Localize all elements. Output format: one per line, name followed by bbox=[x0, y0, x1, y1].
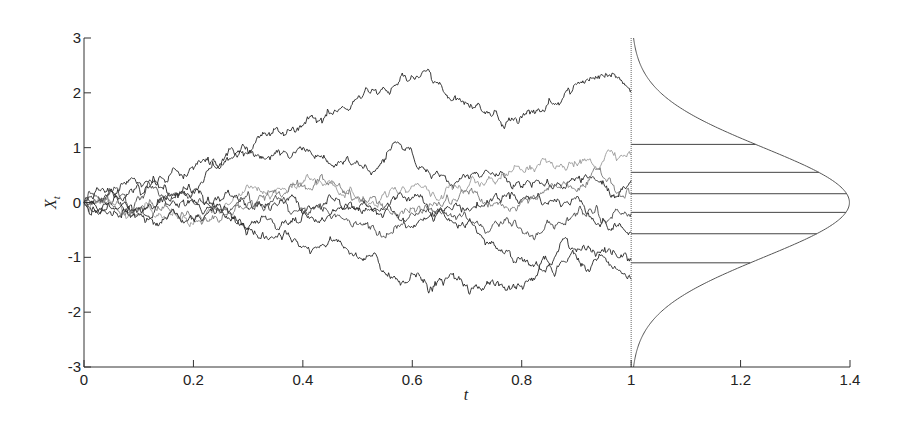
y-tick-label: 1 bbox=[73, 139, 81, 156]
y-tick-label: 3 bbox=[73, 29, 81, 46]
x-tick-label: 0.4 bbox=[292, 371, 313, 388]
brownian-paths-chart: 00.20.40.60.811.21.4-3-2-10123 tXt bbox=[0, 0, 911, 421]
normal-density bbox=[631, 38, 849, 367]
sample-path-line bbox=[84, 182, 631, 240]
sample-path-line bbox=[84, 203, 631, 295]
y-tick-label: -2 bbox=[68, 303, 81, 320]
y-tick-label: -1 bbox=[68, 248, 81, 265]
sample-path-line bbox=[84, 69, 631, 214]
x-tick-label: 0.6 bbox=[402, 371, 423, 388]
y-axis-title: Xt bbox=[42, 195, 62, 210]
x-tick-label: 1.4 bbox=[840, 371, 861, 388]
x-tick-label: 0 bbox=[80, 371, 88, 388]
x-tick-label: 1 bbox=[627, 371, 635, 388]
x-tick-label: 0.2 bbox=[183, 371, 204, 388]
sample-paths bbox=[84, 69, 631, 294]
y-tick-label: -3 bbox=[68, 358, 81, 375]
axes: 00.20.40.60.811.21.4-3-2-10123 bbox=[68, 29, 861, 388]
density-curve bbox=[634, 38, 850, 367]
y-tick-label: 0 bbox=[73, 194, 81, 211]
y-tick-label: 2 bbox=[73, 84, 81, 101]
x-axis-title: t bbox=[464, 386, 469, 403]
x-tick-label: 0.8 bbox=[511, 371, 532, 388]
x-tick-label: 1.2 bbox=[730, 371, 751, 388]
